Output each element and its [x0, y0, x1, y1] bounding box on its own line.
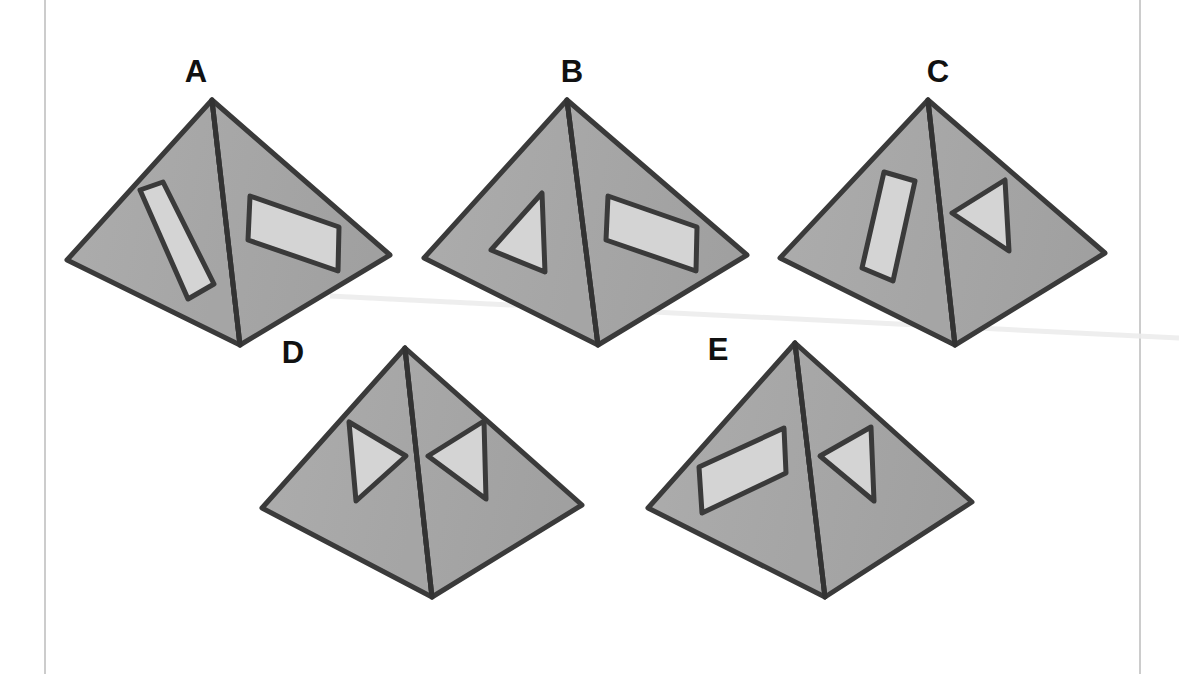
pyramid-figures-svg: ABCDE	[0, 0, 1179, 674]
scan-crease-artifact	[330, 296, 1179, 338]
figure-label-e: E	[708, 332, 729, 367]
figure-label-a: A	[185, 54, 207, 89]
figure-label-c: C	[927, 54, 949, 89]
pyramid-figure-d[interactable]	[262, 348, 582, 597]
pyramid-right-face[interactable]	[928, 100, 1105, 345]
pyramid-right-face[interactable]	[405, 348, 582, 597]
figure-sheet: ABCDE	[0, 0, 1179, 674]
pyramid-figure-e[interactable]	[648, 343, 972, 597]
figures-layer	[67, 100, 1105, 597]
pyramid-left-face[interactable]	[780, 100, 955, 345]
pyramid-left-face[interactable]	[262, 348, 432, 597]
pyramid-figure-a[interactable]	[67, 100, 390, 345]
figure-label-b: B	[561, 54, 583, 89]
pyramid-figure-b[interactable]	[424, 100, 747, 345]
figure-label-d: D	[282, 335, 304, 370]
crease-line	[330, 296, 1179, 338]
pyramid-figure-c[interactable]	[780, 100, 1105, 345]
